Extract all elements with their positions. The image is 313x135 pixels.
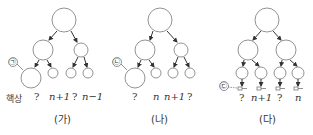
cell [48, 68, 58, 78]
marker-label-a: ㉠ [9, 56, 16, 66]
cell [292, 67, 304, 79]
leaf-label: n+1 [164, 91, 185, 102]
cell [151, 68, 161, 78]
marker-label-c: ㉢ [220, 80, 227, 90]
cell [185, 68, 195, 78]
cell [33, 40, 53, 60]
leaf-label: n+1 [49, 91, 70, 102]
parent-cell [255, 8, 279, 32]
marker-label-b: ㉡ [113, 56, 120, 66]
cell [174, 43, 188, 57]
leaf-label: n−1 [82, 91, 103, 102]
cell-target [125, 68, 145, 88]
leaf-label: n [153, 91, 159, 102]
leaf-label: ? [277, 92, 282, 103]
cell [83, 68, 93, 78]
cell [74, 43, 88, 57]
panel-da-tree [220, 8, 305, 91]
leaf-label: ? [187, 91, 192, 102]
cell [168, 68, 178, 78]
leaf-label: ? [72, 91, 77, 102]
panel-na-tree [113, 8, 196, 88]
leaf-label: ? [132, 91, 137, 102]
gamete [276, 87, 280, 90]
ploidy-label: 핵상 [6, 92, 22, 105]
cell [135, 40, 155, 60]
cell [238, 40, 258, 60]
gamete [294, 87, 298, 90]
leaf-label: ? [34, 91, 39, 102]
parent-cell [148, 8, 172, 32]
cell [276, 40, 296, 60]
caption-na: (나) [151, 111, 168, 126]
gamete [257, 87, 261, 90]
cell [236, 67, 248, 79]
caption-da: (다) [259, 111, 276, 126]
panel-ga-tree [9, 8, 94, 88]
cell [66, 68, 76, 78]
leaf-label: n [295, 92, 301, 103]
cell [274, 67, 286, 79]
parent-cell [52, 8, 76, 32]
cell-target [21, 68, 41, 88]
cell [255, 67, 267, 79]
caption-ga: (가) [54, 111, 71, 126]
leaf-label: n+1 [251, 92, 272, 103]
gamete [238, 87, 242, 90]
leaf-label: ? [239, 92, 244, 103]
